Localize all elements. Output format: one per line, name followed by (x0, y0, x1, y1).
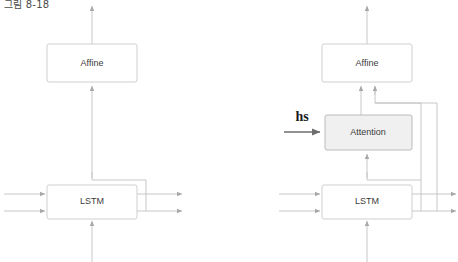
left-affine-label: Affine (81, 58, 104, 68)
left-lstm-label: LSTM (80, 196, 104, 206)
left-panel: Affine LSTM (4, 6, 182, 262)
right-lstm-label: LSTM (355, 196, 379, 206)
hs-label: hs (295, 109, 309, 124)
diagram-svg: Affine LSTM (0, 0, 458, 262)
figure-canvas: 그림 8-18 Affi (0, 0, 458, 262)
right-attention-label: Attention (350, 127, 386, 137)
right-affine-label: Affine (356, 58, 379, 68)
right-panel: hs Affine Attention LSTM (279, 6, 456, 262)
